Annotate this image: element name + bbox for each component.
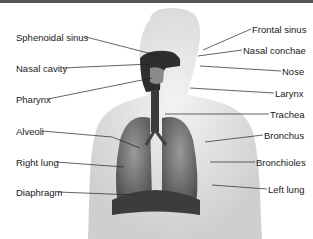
respiratory-diagram: Sphenoidal sinus Nasal cavity Pharynx Al… — [0, 0, 313, 239]
label-bronchus: Bronchus — [264, 130, 304, 141]
label-nasal-conchae: Nasal conchae — [243, 45, 306, 56]
label-sphenoidal-sinus: Sphenoidal sinus — [16, 32, 88, 43]
label-frontal-sinus: Frontal sinus — [252, 24, 306, 35]
label-nose: Nose — [282, 66, 304, 77]
label-trachea: Trachea — [270, 109, 305, 120]
label-nasal-cavity: Nasal cavity — [16, 63, 67, 74]
label-alveoli: Alveoli — [16, 126, 44, 137]
label-right-lung: Right lung — [16, 157, 59, 168]
trachea — [151, 90, 159, 132]
label-pharynx: Pharynx — [16, 94, 51, 105]
label-diaphragm: Diaphragm — [16, 187, 62, 198]
mouth-cavity — [150, 67, 164, 84]
label-larynx: Larynx — [275, 88, 304, 99]
label-left-lung: Left lung — [268, 184, 304, 195]
label-bronchioles: Bronchioles — [256, 157, 306, 168]
